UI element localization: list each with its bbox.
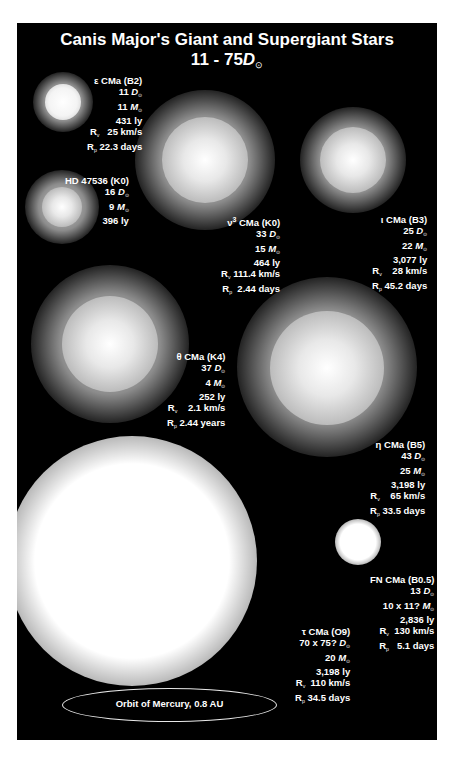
- star-name: ν3 CMa (K0): [221, 214, 280, 228]
- star-tau-cma: [17, 436, 257, 686]
- label-epsilon-cma: ε CMa (B2) 11 D⊙ 11 M⊙ 431 ly Rv 25 km/s…: [87, 75, 142, 155]
- star-name: η CMa (B5): [370, 439, 425, 450]
- star-rv: Rv 25 km/s: [87, 126, 142, 141]
- star-mass: 22 M⊙: [372, 240, 427, 255]
- star-name: HD 47536 (K0): [65, 175, 129, 186]
- star-distance: 2,836 ly: [370, 614, 434, 625]
- star-name: τ CMa (O9): [295, 626, 350, 637]
- subtitle-range: 11 - 75: [191, 50, 243, 69]
- diagram-panel: Canis Major's Giant and Supergiant Stars…: [17, 23, 437, 740]
- star-rv: Rv 28 km/s: [372, 265, 427, 280]
- star-diameter: 33 D⊙: [221, 228, 280, 243]
- label-fn-cma: FN CMa (B0.5) 13 D⊙ 10 x 11? M⊙ 2,836 ly…: [370, 574, 434, 654]
- star-distance: 3,198 ly: [370, 479, 425, 490]
- diagram-subtitle: 11 - 75D⊙: [17, 50, 437, 75]
- star-distance: 431 ly: [87, 115, 142, 126]
- star-fn-cma: [335, 519, 381, 565]
- star-diameter: 37 D⊙: [167, 362, 225, 377]
- star-diameter: 16 D⊙: [65, 186, 129, 201]
- star-diameter: 43 D⊙: [370, 450, 425, 465]
- star-rp: Rp 33.5 days: [370, 505, 425, 520]
- label-nu3-cma: ν3 CMa (K0) 33 D⊙ 15 M⊙ 464 ly Rv 111.4 …: [221, 214, 280, 297]
- star-epsilon-cma: [45, 84, 81, 120]
- star-distance: 252 ly: [167, 391, 225, 402]
- star-theta-cma: [62, 296, 158, 392]
- star-diameter: 25 D⊙: [372, 225, 427, 240]
- star-mass: 9 M⊙: [65, 201, 129, 216]
- star-mass: 4 M⊙: [167, 377, 225, 392]
- star-name: FN CMa (B0.5): [370, 574, 434, 585]
- star-rv: Rv 2.1 km/s: [167, 402, 225, 417]
- star-rp: Rp 45.2 days: [372, 280, 427, 295]
- label-eta-cma: η CMa (B5) 43 D⊙ 25 M⊙ 3,198 ly Rv 65 km…: [370, 439, 425, 519]
- mercury-orbit-label: Orbit of Mercury, 0.8 AU: [62, 698, 277, 709]
- star-mass: 15 M⊙: [221, 243, 280, 258]
- star-name: ι CMa (B3): [372, 214, 427, 225]
- star-distance: 396 ly: [65, 215, 129, 226]
- star-distance: 3,077 ly: [372, 254, 427, 265]
- star-rv: Rv 110 km/s: [295, 677, 350, 692]
- star-distance: 464 ly: [221, 257, 280, 268]
- star-rv: Rv 65 km/s: [370, 490, 425, 505]
- star-rp: Rp 22.3 days: [87, 141, 142, 156]
- star-mass: 10 x 11? M⊙: [370, 600, 434, 615]
- sun-symbol: ⊙: [255, 60, 263, 70]
- star-rp: Rp 34.5 days: [295, 692, 350, 707]
- star-rv: Rv 130 km/s: [370, 625, 434, 640]
- star-eta-cma: [270, 311, 384, 425]
- star-mass: 11 M⊙: [87, 101, 142, 116]
- label-iota-cma: ι CMa (B3) 25 D⊙ 22 M⊙ 3,077 ly Rv 28 km…: [372, 214, 427, 294]
- star-iota-cma: [320, 127, 386, 193]
- star-name: ε CMa (B2): [87, 75, 142, 86]
- label-tau-cma: τ CMa (O9) 70 x 75? D⊙ 20 M⊙ 3,198 ly Rv…: [295, 626, 350, 706]
- label-theta-cma: θ CMa (K4) 37 D⊙ 4 M⊙ 252 ly Rv 2.1 km/s…: [167, 351, 225, 431]
- star-diameter: 13 D⊙: [370, 585, 434, 600]
- star-distance: 3,198 ly: [295, 666, 350, 677]
- star-nu3-cma: [162, 117, 248, 203]
- star-name: θ CMa (K4): [167, 351, 225, 362]
- diagram-title: Canis Major's Giant and Supergiant Stars: [17, 30, 437, 50]
- subtitle-unit: D: [243, 50, 255, 69]
- star-rp: Rp 2.44 days: [221, 283, 280, 298]
- label-hd-47536: HD 47536 (K0) 16 D⊙ 9 M⊙ 396 ly: [65, 175, 129, 226]
- star-rv: Rv 111.4 km/s: [221, 268, 280, 283]
- star-mass: 20 M⊙: [295, 652, 350, 667]
- star-mass: 25 M⊙: [370, 465, 425, 480]
- star-rp: Rp 5.1 days: [370, 640, 434, 655]
- star-rp: Rp 2.44 years: [167, 417, 225, 432]
- star-diameter: 11 D⊙: [87, 86, 142, 101]
- star-diameter: 70 x 75? D⊙: [295, 637, 350, 652]
